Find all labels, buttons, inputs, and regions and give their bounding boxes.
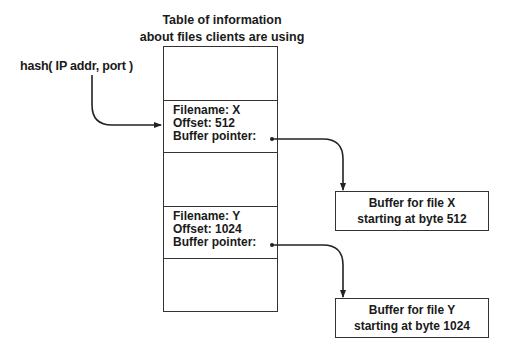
hash-to-table-arrow bbox=[92, 75, 161, 125]
pointer-x-arrow bbox=[270, 137, 343, 190]
pointer-y-arrow bbox=[270, 243, 343, 297]
arrows-layer bbox=[0, 0, 505, 356]
